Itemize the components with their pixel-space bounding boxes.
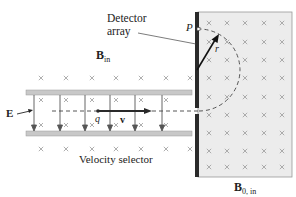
e-field-arrowhead [32,125,37,131]
velocity-arrowhead [144,108,152,114]
field-cross-icon [139,76,143,80]
field-cross-icon [90,98,94,102]
field-cross-icon [164,147,168,151]
field-cross-icon [39,76,43,80]
field-cross-icon [39,98,43,102]
field-cross-icon [139,123,143,127]
b0-main: B [234,180,242,194]
mass-spectrometer-diagram: Detector array P r Bin E q v Velocity se… [0,0,296,197]
detector-leader-line [138,33,196,44]
field-cross-icon [64,76,68,80]
e-label-arrowhead [28,109,33,113]
velocity-selector-label: Velocity selector [79,153,153,165]
point-p-marker [197,28,200,31]
radius-label: r [215,43,219,54]
b0-in-label: B0, in [234,180,256,196]
field-cross-icon [139,98,143,102]
b0-field-region [198,12,292,177]
field-cross-icon [164,98,168,102]
field-cross-icon [90,123,94,127]
bin-field-crosses [39,76,192,151]
field-cross-icon [114,76,118,80]
field-cross-icon [64,98,68,102]
field-cross-icon [188,76,192,80]
field-cross-icon [114,123,118,127]
detector-label-line2: array [107,25,131,37]
detector-array-lower [195,114,199,177]
velocity-label: v [120,114,125,125]
e-field-arrowhead [83,125,88,131]
e-field-arrowhead [108,125,113,131]
detector-array-upper [195,12,199,108]
lower-plate [26,131,192,136]
field-cross-icon [139,147,143,151]
b-in-main: B [96,48,104,62]
e-field-label: E [6,107,13,119]
e-label-arrow [17,111,30,114]
point-p-label: P [186,21,193,33]
b-in-sub: in [104,55,110,64]
e-field-arrowhead [133,125,138,131]
field-cross-icon [114,98,118,102]
field-cross-icon [90,76,94,80]
b-in-label: Bin [96,48,110,64]
field-cross-icon [188,147,192,151]
field-cross-icon [164,76,168,80]
detector-label-line1: Detector [107,12,147,24]
field-cross-icon [90,147,94,151]
e-field-arrowhead [160,125,165,131]
field-cross-icon [64,123,68,127]
b0-sub: 0, in [242,187,256,196]
field-cross-icon [64,147,68,151]
field-cross-icon [114,147,118,151]
e-field-arrowhead [58,125,63,131]
upper-plate [26,90,192,95]
field-cross-icon [39,147,43,151]
charge-label: q [95,113,100,124]
field-cross-icon [39,123,43,127]
